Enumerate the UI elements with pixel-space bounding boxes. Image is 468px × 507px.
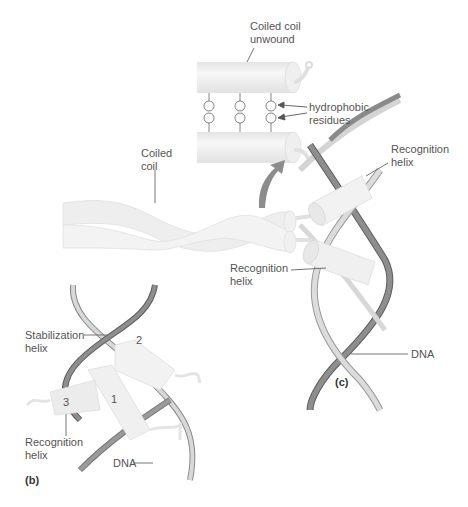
label-stabilization-helix: Stabilization helix <box>25 329 84 355</box>
label-recognition-helix-b: Recognition helix <box>25 436 83 462</box>
label-dna-b: DNA <box>113 457 136 470</box>
label-hydrophobic-residues: hydrophobic residues <box>309 101 369 127</box>
hydrophobic-residue-pairs <box>204 93 276 132</box>
top-helix-cylinder <box>197 62 293 93</box>
helix-number-2: 2 <box>136 334 142 346</box>
bottom-helix-cylinder <box>197 132 293 163</box>
label-dna-c: DNA <box>411 348 434 361</box>
recognition-helix-cylinder-lower <box>300 238 375 285</box>
unwound-coiled-coil <box>197 48 312 163</box>
unwound-leader-line <box>247 48 254 62</box>
helix-number-3: 3 <box>63 396 69 408</box>
panel-label-b: (b) <box>25 474 39 486</box>
panel-label-c: (c) <box>335 376 348 388</box>
label-coiled-coil-unwound: Coiled coil unwound <box>250 20 301 46</box>
residue-pointer-arrows <box>278 102 307 120</box>
label-recognition-helix-lower: Recognition helix <box>230 262 288 288</box>
label-coiled-coil: Coiled coil <box>141 147 172 173</box>
protein-dna-binding-diagram <box>0 0 468 507</box>
curved-unwind-arrow <box>259 160 285 208</box>
helix-2-cylinder <box>115 340 200 390</box>
label-recognition-helix-upper: Recognition helix <box>391 143 449 169</box>
coiled-coil <box>63 170 312 253</box>
helix-number-1: 1 <box>111 393 117 405</box>
